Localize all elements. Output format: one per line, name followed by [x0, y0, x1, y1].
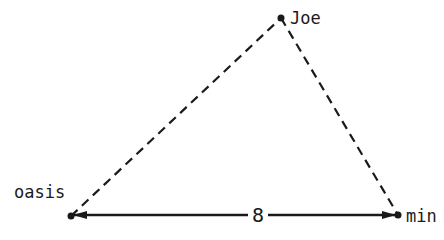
node-mine-label: min	[406, 206, 437, 226]
edge-length-label: 8	[252, 203, 264, 227]
node-joe-dot	[278, 15, 285, 22]
node-oasis-dot	[68, 213, 75, 220]
edge-oasis-joe	[71, 18, 281, 216]
node-mine-dot	[395, 212, 402, 219]
node-oasis-label: oasis	[14, 182, 65, 202]
triangle-diagram: oasis Joe min 8	[0, 0, 444, 240]
node-joe-label: Joe	[290, 8, 321, 28]
edge-joe-mine	[281, 18, 398, 215]
